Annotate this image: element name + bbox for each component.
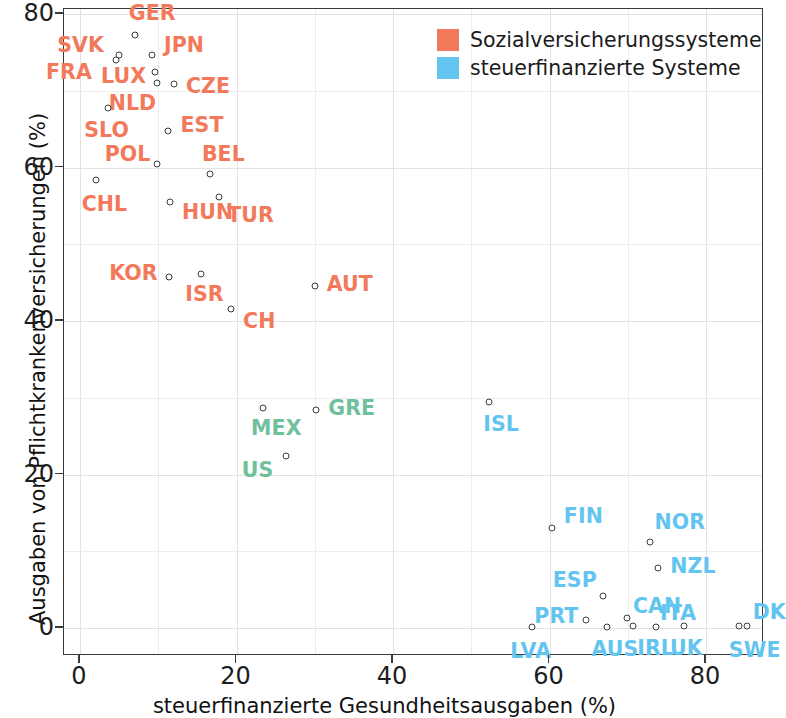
data-point-ch xyxy=(228,306,235,313)
data-point-fra xyxy=(112,57,119,64)
data-point-prt xyxy=(583,616,590,623)
data-point-uk xyxy=(681,623,688,630)
gridline-vertical xyxy=(628,9,629,654)
point-label-cze: CZE xyxy=(186,76,230,97)
point-label-pol: POL xyxy=(105,144,151,165)
y-tick-label: 80 xyxy=(23,0,54,27)
point-label-swe: SWE xyxy=(729,640,781,661)
point-label-hun: HUN xyxy=(182,202,233,223)
point-label-chl: CHL xyxy=(82,194,128,215)
gridline-horizontal xyxy=(64,475,762,476)
point-label-jpn: JPN xyxy=(164,35,204,56)
data-point-slo xyxy=(105,104,112,111)
gridline-horizontal xyxy=(64,551,762,552)
y-tick-mark xyxy=(55,319,63,321)
point-label-gre: GRE xyxy=(328,398,375,419)
data-point-chl xyxy=(92,176,99,183)
gridline-vertical xyxy=(550,9,551,654)
data-point-lva xyxy=(529,624,536,631)
point-label-slo: SLO xyxy=(84,120,129,141)
point-label-ita: ITA xyxy=(660,603,696,624)
gridline-vertical xyxy=(393,9,394,654)
legend: Sozialversicherungssystemesteuerfinanzie… xyxy=(437,28,762,84)
data-point-nzl xyxy=(655,565,662,572)
x-tick-label: 80 xyxy=(690,662,721,690)
x-tick-label: 40 xyxy=(377,662,408,690)
point-label-lva: LVA xyxy=(510,641,551,662)
point-label-dk: DK xyxy=(753,602,786,623)
gridline-horizontal xyxy=(64,321,762,322)
point-label-kor: KOR xyxy=(109,263,157,284)
legend-label: Sozialversicherungssysteme xyxy=(470,28,762,52)
data-point-ita xyxy=(652,624,659,631)
point-label-fra: FRA xyxy=(46,62,92,83)
point-label-nzl: NZL xyxy=(670,556,715,577)
point-label-aus: AUS xyxy=(591,639,638,660)
x-tick-label: 20 xyxy=(220,662,251,690)
y-tick-label: 20 xyxy=(23,460,54,488)
data-point-can xyxy=(623,615,630,622)
data-point-cze xyxy=(170,80,177,87)
plot-area: GERSVKJPNFRALUXNLDCZESLOESTPOLBELCHLHUNT… xyxy=(63,8,763,655)
data-point-hun xyxy=(166,199,173,206)
legend-item: steuerfinanzierte Systeme xyxy=(437,56,762,80)
data-point-swe xyxy=(735,623,742,630)
y-tick-label: 40 xyxy=(23,306,54,334)
data-point-ger xyxy=(131,31,138,38)
point-label-irl: IRL xyxy=(637,638,674,659)
point-label-uk: UK xyxy=(670,638,703,659)
data-point-isr xyxy=(198,271,205,278)
x-axis-title: steuerfinanzierte Gesundheitsausgaben (%… xyxy=(0,694,769,718)
data-point-gre xyxy=(313,407,320,414)
gridline-vertical xyxy=(315,9,316,654)
data-point-lux xyxy=(152,68,159,75)
data-point-nld xyxy=(153,80,160,87)
point-label-tur: TUR xyxy=(227,205,274,226)
y-tick-label: 0 xyxy=(39,613,54,641)
point-label-nld: NLD xyxy=(109,93,157,114)
data-point-mex xyxy=(260,405,267,412)
point-label-aut: AUT xyxy=(327,274,373,295)
gridline-vertical xyxy=(80,9,81,654)
y-tick-mark xyxy=(55,626,63,628)
x-tick-label: 60 xyxy=(533,662,564,690)
gridline-horizontal xyxy=(64,244,762,245)
point-label-prt: PRT xyxy=(534,606,578,627)
point-label-us: US xyxy=(242,460,274,481)
data-point-dk xyxy=(743,623,750,630)
gridline-vertical xyxy=(158,9,159,654)
y-tick-mark xyxy=(55,12,63,14)
gridline-vertical xyxy=(237,9,238,654)
y-tick-mark xyxy=(55,166,63,168)
data-point-isl xyxy=(486,399,493,406)
gridline-horizontal xyxy=(64,398,762,399)
gridline-horizontal xyxy=(64,91,762,92)
legend-label: steuerfinanzierte Systeme xyxy=(470,56,741,80)
data-point-esp xyxy=(599,592,606,599)
gridline-vertical xyxy=(471,9,472,654)
data-point-jpn xyxy=(148,52,155,59)
point-label-mex: MEX xyxy=(251,418,302,439)
point-label-est: EST xyxy=(180,115,223,136)
point-label-esp: ESP xyxy=(553,570,597,591)
y-tick-mark xyxy=(55,473,63,475)
data-point-est xyxy=(165,127,172,134)
point-label-ch: CH xyxy=(243,311,275,332)
point-label-fin: FIN xyxy=(564,506,603,527)
gridline-horizontal xyxy=(64,168,762,169)
point-label-isl: ISL xyxy=(483,414,519,435)
point-label-ger: GER xyxy=(129,3,176,24)
data-point-irl xyxy=(630,622,637,629)
legend-swatch xyxy=(437,57,459,79)
point-label-svk: SVK xyxy=(57,35,104,56)
x-tick-label: 0 xyxy=(71,662,86,690)
point-label-isr: ISR xyxy=(185,284,223,305)
y-tick-label: 60 xyxy=(23,153,54,181)
y-axis-title: Ausgaben von Pflichtkrankenversicherunge… xyxy=(26,113,50,625)
point-label-bel: BEL xyxy=(202,144,245,165)
legend-swatch xyxy=(437,29,459,51)
data-point-aus xyxy=(604,624,611,631)
data-point-aut xyxy=(311,282,318,289)
point-label-lux: LUX xyxy=(101,66,146,87)
